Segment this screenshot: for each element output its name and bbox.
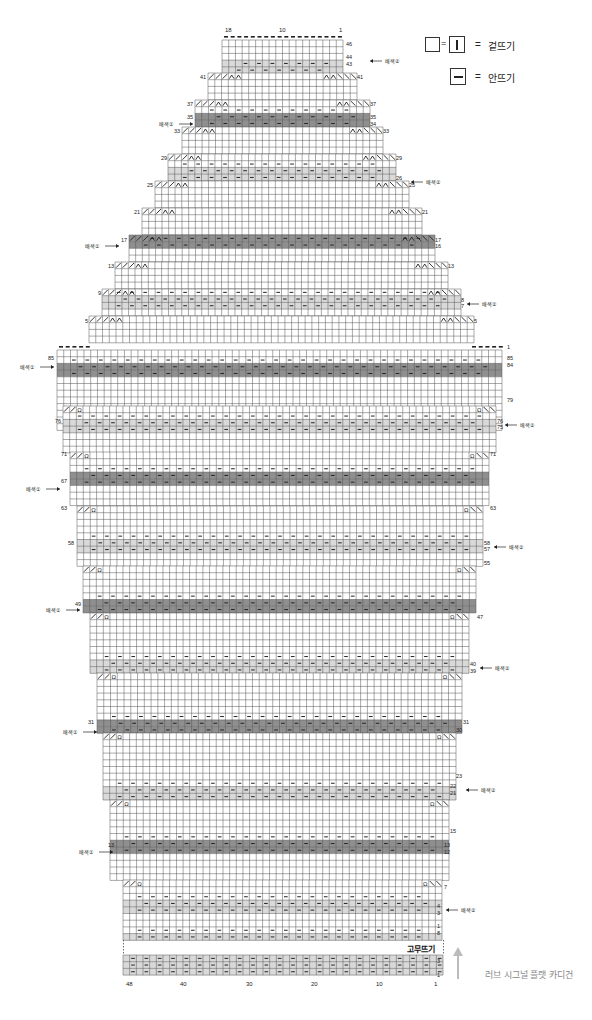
svg-text:41: 41 [357,74,363,80]
svg-text:Ω: Ω [477,407,482,413]
svg-text:37: 37 [187,101,193,107]
svg-text:배색①: 배색① [63,729,78,736]
svg-text:Ω: Ω [117,734,122,740]
svg-text:배색②: 배색② [426,179,441,186]
svg-text:10: 10 [376,981,383,987]
svg-text:12: 12 [444,849,450,855]
svg-text:20: 20 [311,981,318,987]
svg-text:26: 26 [396,175,402,181]
legend-knit-label: 겉뜨기 [488,38,515,53]
svg-text:25: 25 [147,182,153,188]
svg-text:85: 85 [507,355,513,361]
svg-text:39: 39 [470,668,476,674]
svg-text:Ω: Ω [137,881,142,887]
svg-text:31: 31 [88,719,94,725]
svg-text:Ω: Ω [464,507,469,513]
svg-text:배색②: 배색② [385,58,400,65]
svg-text:8: 8 [437,930,440,936]
ribbing-label: 고무뜨기 [407,943,435,954]
svg-text:16: 16 [435,243,441,249]
svg-text:배색①: 배색① [20,364,35,371]
svg-text:40: 40 [180,981,187,987]
svg-text:21: 21 [422,209,428,215]
svg-text:33: 33 [383,128,389,134]
svg-text:29: 29 [396,155,402,161]
svg-text:23: 23 [456,773,462,779]
svg-text:Ω: Ω [77,407,82,413]
svg-text:5: 5 [474,318,477,324]
svg-text:3: 3 [437,910,440,916]
svg-text:18: 18 [225,27,232,33]
svg-text:배색①: 배색① [159,121,174,128]
svg-text:75: 75 [497,424,503,430]
svg-text:배색②: 배색② [495,665,510,672]
svg-text:21: 21 [134,209,140,215]
svg-text:Ω: Ω [112,674,117,680]
svg-text:71: 71 [61,451,67,457]
svg-text:79: 79 [507,397,513,403]
legend-eq-1: = [475,39,481,50]
svg-text:71: 71 [490,451,496,457]
svg-text:Ω: Ω [97,567,102,573]
svg-text:35: 35 [187,114,193,120]
svg-text:44: 44 [346,54,352,60]
svg-text:63: 63 [61,505,67,511]
svg-text:31: 31 [463,719,469,725]
svg-text:배색①: 배색① [79,849,94,856]
svg-text:43: 43 [346,61,352,67]
svg-text:1: 1 [507,344,510,350]
svg-text:Ω: Ω [124,801,129,807]
svg-text:Ω: Ω [470,453,475,459]
svg-text:7: 7 [444,884,447,890]
svg-text:1: 1 [437,972,440,978]
svg-text:33: 33 [174,128,180,134]
svg-text:17: 17 [121,237,127,243]
svg-text:47: 47 [477,614,483,620]
svg-text:35: 35 [370,114,376,120]
svg-text:Ω: Ω [450,614,455,620]
svg-text:34: 34 [370,121,376,127]
svg-text:13: 13 [108,263,114,269]
svg-text:30: 30 [246,981,253,987]
svg-text:Ω: Ω [104,614,109,620]
svg-text:41: 41 [200,74,206,80]
svg-text:배색②: 배색② [509,544,524,551]
svg-text:배색②: 배색② [520,422,535,429]
svg-text:Ω: Ω [457,567,462,573]
svg-text:15: 15 [450,828,456,834]
svg-text:배색②: 배색② [482,301,497,308]
svg-text:배색②: 배색② [461,907,476,914]
svg-text:13: 13 [444,842,450,848]
svg-text:Ω: Ω [437,734,442,740]
svg-text:Ω: Ω [430,801,435,807]
svg-text:37: 37 [370,101,376,107]
svg-text:55: 55 [484,560,490,566]
legend-eq-2: = [475,71,481,82]
svg-text:Ω: Ω [443,674,448,680]
svg-text:Ω: Ω [91,507,96,513]
svg-text:25: 25 [409,182,415,188]
svg-text:29: 29 [161,155,167,161]
horizontal-bar-icon [454,76,463,78]
pattern-caption: 러브 시그널 플랫 카디건 [485,968,573,981]
knitting-chart: ΩΩΩΩΩΩΩΩΩΩΩΩΩΩΩΩΩΩ1810148403020101464443… [0,0,592,1020]
svg-text:49: 49 [75,601,81,607]
svg-text:63: 63 [490,505,496,511]
svg-text:10: 10 [279,27,286,33]
svg-text:48: 48 [126,981,133,987]
svg-text:배색①: 배색① [46,607,61,614]
svg-text:30: 30 [456,727,462,733]
svg-text:67: 67 [61,478,67,484]
svg-text:40: 40 [470,661,476,667]
legend-purl-label: 안뜨기 [488,70,515,85]
vertical-bar-icon [456,40,458,50]
svg-text:1: 1 [339,27,343,33]
legend-knit-bar-square [449,36,465,53]
svg-text:13: 13 [108,842,114,848]
svg-text:58: 58 [68,540,74,546]
svg-text:배색①: 배색① [26,486,41,493]
legend-equals-small: = [441,38,446,48]
svg-text:84: 84 [507,362,513,368]
svg-text:배색①: 배색① [85,243,100,250]
svg-text:76: 76 [55,418,61,424]
